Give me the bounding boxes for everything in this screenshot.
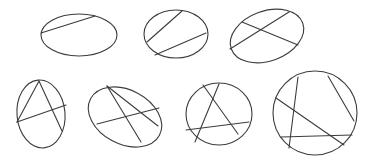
ellipse-2-figure — [144, 10, 208, 58]
ellipse-3-chord-1 — [242, 22, 298, 45]
ellipse-4-figure — [14, 78, 68, 150]
ellipse-1 — [41, 14, 117, 56]
ellipse-7-figure — [273, 71, 357, 155]
ellipse-6-figure — [186, 83, 252, 145]
ellipse-7-chord-4 — [281, 135, 352, 137]
ellipse-1-chord-1 — [41, 16, 95, 33]
ellipse-6 — [186, 83, 252, 145]
diagram-canvas — [0, 0, 374, 162]
ellipse-3 — [223, 0, 312, 72]
ellipse-7-chord-2 — [328, 76, 354, 121]
ellipse-6-chord-2 — [195, 84, 219, 142]
ellipses-chords-diagram — [0, 0, 374, 162]
ellipse-7 — [273, 71, 357, 155]
ellipse-5-figure — [78, 75, 172, 159]
ellipse-6-chord-3 — [186, 122, 249, 130]
ellipse-2 — [144, 10, 208, 58]
ellipse-2-chord-1 — [147, 11, 182, 42]
ellipse-7-chord-3 — [276, 98, 344, 145]
ellipse-3-chord-2 — [230, 12, 289, 49]
ellipse-4-chord-2 — [39, 81, 62, 131]
ellipse-3-figure — [223, 0, 312, 72]
ellipse-1-figure — [41, 14, 117, 56]
